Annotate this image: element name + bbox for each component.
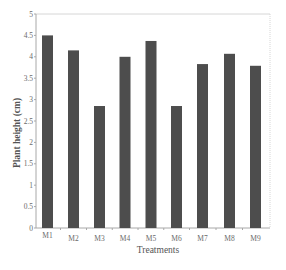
y-tick-label: 2.5	[24, 117, 34, 126]
y-tick-label: 3.5	[24, 74, 34, 83]
y-axis-ticks: 00.511.522.533.544.55	[24, 10, 36, 233]
y-axis-title: Plant height (cm)	[12, 98, 23, 168]
bar-series	[42, 35, 261, 228]
bar-m3	[94, 106, 105, 228]
bar-m6	[171, 106, 182, 228]
bar-chart: 00.511.522.533.544.55 M1M2M3M4M5M6M7M8M9…	[0, 0, 286, 270]
y-tick-label: 3	[29, 95, 33, 104]
bar-m1	[42, 35, 53, 228]
x-axis-title: Treatments	[137, 245, 180, 255]
x-tick-label: M8	[224, 234, 235, 243]
bar-m5	[146, 41, 157, 228]
y-tick-label: 5	[29, 10, 33, 19]
x-tick-label: M4	[120, 234, 131, 243]
x-tick-label: M2	[68, 234, 79, 243]
y-tick-label: 4	[29, 52, 33, 61]
bar-m4	[120, 57, 131, 228]
y-tick-label: 2	[29, 138, 33, 147]
y-tick-label: 1.5	[24, 159, 34, 168]
bar-m7	[197, 64, 208, 228]
bar-m9	[250, 66, 261, 228]
x-tick-label: M9	[250, 234, 261, 243]
bar-m2	[68, 50, 79, 228]
x-tick-label: M3	[94, 234, 105, 243]
x-tick-label: M6	[171, 234, 182, 243]
y-tick-label: 1	[29, 181, 33, 190]
x-tick-label: M5	[146, 234, 157, 243]
x-tick-label: M1	[42, 231, 53, 240]
y-tick-label: 4.5	[24, 31, 34, 40]
y-tick-label: 0	[29, 224, 33, 233]
x-tick-label: M7	[197, 234, 208, 243]
x-axis-ticks: M1M2M3M4M5M6M7M8M9	[42, 228, 261, 243]
bar-m8	[224, 54, 235, 228]
y-tick-label: 0.5	[24, 202, 34, 211]
